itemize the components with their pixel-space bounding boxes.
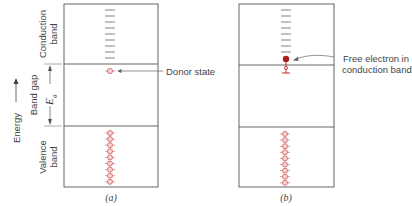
valence-label-line2: band — [48, 146, 59, 167]
panel-a-caption: (a) — [105, 192, 117, 204]
conduction-band-label: Conduction band — [37, 10, 59, 58]
eg-symbol: E — [43, 98, 55, 106]
energy-label: Energy — [11, 113, 22, 143]
gap-arrow-down-icon — [48, 119, 52, 125]
panel-a-conduction-states — [105, 10, 115, 58]
valence-electron — [283, 138, 288, 143]
valence-electron — [108, 179, 113, 184]
free-electron-label-line2: conduction band — [342, 64, 412, 75]
conduction-label-line2: band — [48, 23, 59, 44]
valence-electron — [108, 143, 113, 148]
energy-arrow-icon — [14, 78, 19, 84]
panel-a: Donor state (a) — [64, 4, 215, 204]
valence-electron — [283, 162, 288, 167]
free-electron-label-line1: Free electron in — [343, 53, 409, 64]
conduction-label-line1: Conduction — [37, 10, 48, 58]
panel-a-valence-electrons — [105, 131, 115, 185]
valence-electron — [283, 180, 288, 185]
donor-ion-marker — [284, 66, 287, 69]
valence-electron — [283, 144, 288, 149]
valence-electron — [283, 132, 288, 137]
valence-electron — [108, 149, 113, 154]
panel-b-valence-electrons — [280, 132, 290, 186]
pointer-arrowhead-icon — [293, 57, 299, 62]
valence-electron — [283, 150, 288, 155]
valence-electron — [108, 167, 113, 172]
band-diagram: Energy Conduction band Band gap E g Vale… — [0, 0, 412, 206]
band-gap-label: Band gap E g — [28, 64, 62, 126]
valence-band-label: Valence band — [37, 140, 59, 174]
valence-electron — [283, 174, 288, 179]
donor-electron — [107, 68, 112, 73]
valence-electron — [108, 155, 113, 160]
valence-electron — [283, 156, 288, 161]
eg-subscript: g — [50, 94, 58, 98]
valence-label-line1: Valence — [37, 140, 48, 174]
valence-electron — [283, 168, 288, 173]
valence-electron — [108, 137, 113, 142]
panel-b-caption: (b) — [280, 192, 292, 204]
donor-state-label: Donor state — [166, 66, 215, 77]
valence-electron — [108, 131, 113, 136]
gap-arrow-up-icon — [48, 65, 52, 71]
free-electron-pointer — [294, 55, 334, 60]
valence-electron — [108, 173, 113, 178]
energy-axis: Energy — [11, 78, 22, 143]
panel-b-conduction-states — [281, 10, 291, 52]
free-electron — [283, 56, 289, 62]
panel-b: Free electron in conduction band (b) — [239, 4, 412, 204]
gap-label: Band gap — [28, 75, 39, 116]
valence-electron — [108, 161, 113, 166]
